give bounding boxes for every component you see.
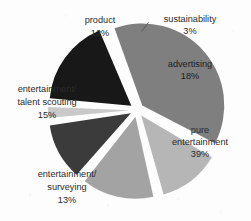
entertainment-surveying-value-text: 13% xyxy=(58,195,76,205)
sustainability-value-text: 3% xyxy=(183,26,196,36)
advertising-label-text: advertising xyxy=(168,59,212,69)
product-value-text: 12% xyxy=(91,28,109,38)
talent-scouting-label-line1: entertainment/ xyxy=(18,84,77,94)
talent-scouting-value-text: 15% xyxy=(38,110,56,120)
product-label-text: product xyxy=(85,15,116,25)
talent-scouting-label-line2: talent scouting xyxy=(17,97,76,107)
pure-entertainment-label-line1: pure xyxy=(191,125,209,135)
entertainment-surveying-label-line1: entertainment/ xyxy=(38,169,97,179)
slice-label-entertainment-surveying: entertainment/ surveying 13% xyxy=(38,169,97,205)
pie-chart-figure: sustainability 3% advertising 18% pure e… xyxy=(0,0,251,221)
slice-label-product: product 12% xyxy=(85,15,116,38)
pure-entertainment-label-line2: entertainment xyxy=(172,137,229,147)
pie-chart-canvas: sustainability 3% advertising 18% pure e… xyxy=(0,0,251,221)
advertising-value-text: 18% xyxy=(181,71,199,81)
sustainability-label-text: sustainability xyxy=(164,14,217,24)
pure-entertainment-value-text: 39% xyxy=(191,149,209,159)
entertainment-surveying-label-line2: surveying xyxy=(47,182,86,192)
pie-slice-advertising[interactable] xyxy=(50,30,132,105)
